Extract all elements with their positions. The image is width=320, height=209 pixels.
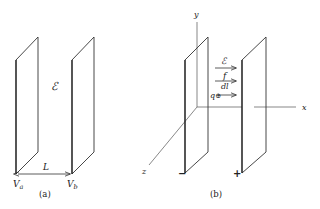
caption-a: (a) [39, 189, 51, 199]
voltage-a-label: Va [13, 179, 24, 191]
field-label-b: ℰ [221, 56, 228, 66]
displacement-label: dl [221, 82, 229, 91]
positive-plate [242, 37, 266, 173]
charge-label: q⊕ [210, 91, 221, 100]
positive-sign: + [233, 168, 241, 179]
y-axis-label: y [193, 10, 199, 19]
z-axis-label: z [141, 167, 147, 176]
distance-label: L [42, 162, 49, 172]
negative-sign: − [178, 168, 186, 179]
caption-b: (b) [210, 189, 222, 199]
field-label-a: ℰ [51, 80, 59, 93]
left-plate-a [16, 37, 38, 174]
force-label: f [222, 71, 228, 81]
panel-b: y x z − + ℰ f dl q⊕ (b) [141, 10, 307, 199]
capacitor-diagram: ℰ L Va Vb (a) y x z − + ℰ f [0, 0, 320, 209]
voltage-b-label: Vb [67, 179, 78, 191]
z-axis [149, 107, 197, 165]
x-axis-label: x [302, 103, 307, 112]
panel-a: ℰ L Va Vb (a) [13, 37, 94, 199]
right-plate-a [72, 37, 94, 174]
negative-plate [185, 37, 208, 173]
